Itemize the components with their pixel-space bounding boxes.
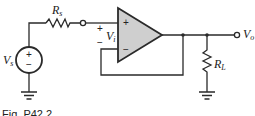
opamp-plus: + [123, 17, 129, 28]
opamp-minus: − [123, 44, 129, 55]
circuit-diagram: + − + − + − Rs Vs Vi RL Vo Fig. P42.2 [0, 0, 255, 116]
figure-caption: Fig. P42.2 [2, 108, 52, 116]
vi-minus: − [97, 37, 103, 48]
ground-symbol-right [199, 92, 215, 99]
vs-label: Vs [3, 53, 13, 68]
source-resistor [46, 19, 80, 27]
source-minus: − [26, 59, 32, 70]
junction-dot [205, 33, 209, 37]
rs-label: Rs [51, 3, 62, 18]
wire-source-top [29, 23, 46, 47]
vi-plus: + [97, 23, 103, 34]
ground-symbol-left [21, 92, 37, 99]
output-terminal [234, 32, 239, 37]
vi-label: Vi [106, 29, 116, 44]
load-resistor [203, 35, 211, 92]
rl-label: RL [213, 57, 226, 72]
vo-label: Vo [243, 27, 254, 42]
junction-dot [181, 33, 185, 37]
input-terminal [80, 20, 85, 25]
